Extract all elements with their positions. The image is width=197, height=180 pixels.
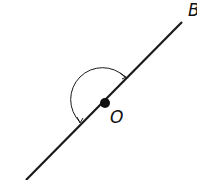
diagram-canvas: B O [0, 0, 197, 180]
vertex-point [100, 98, 110, 108]
label-b: B [188, 0, 197, 20]
label-o: O [110, 107, 123, 127]
